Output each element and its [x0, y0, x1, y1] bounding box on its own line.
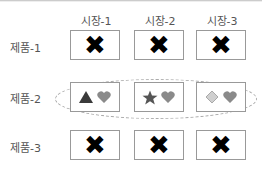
cell-p1-m1: ✖ [70, 30, 120, 60]
cell-p1-m3: ✖ [196, 30, 246, 60]
x-mark-icon: ✖ [84, 32, 106, 58]
x-mark-icon: ✖ [148, 32, 170, 58]
heart-icon [222, 90, 238, 104]
cell-p1-m2: ✖ [134, 30, 184, 60]
heart-icon [96, 90, 112, 104]
row-label-product-1: 제품-1 [10, 39, 55, 55]
x-mark-icon: ✖ [84, 132, 106, 158]
cell-p3-m2: ✖ [134, 130, 184, 160]
cell-p2-m3 [196, 82, 246, 112]
star-icon [142, 90, 158, 105]
column-header-market-3: 시장-3 [196, 12, 248, 28]
top-divider [0, 0, 262, 2]
cell-p2-m2 [134, 82, 184, 112]
cell-p2-m1 [70, 82, 120, 112]
diamond-icon [204, 90, 220, 104]
cell-p3-m3: ✖ [196, 130, 246, 160]
column-header-market-1: 시장-1 [70, 12, 122, 28]
x-mark-icon: ✖ [210, 132, 232, 158]
column-header-market-2: 시장-2 [134, 12, 186, 28]
heart-icon [160, 90, 176, 104]
triangle-icon [78, 90, 94, 104]
cell-p3-m1: ✖ [70, 130, 120, 160]
row-label-product-3: 제품-3 [10, 139, 55, 155]
x-mark-icon: ✖ [210, 32, 232, 58]
row-label-product-2: 제품-2 [10, 90, 55, 106]
x-mark-icon: ✖ [148, 132, 170, 158]
